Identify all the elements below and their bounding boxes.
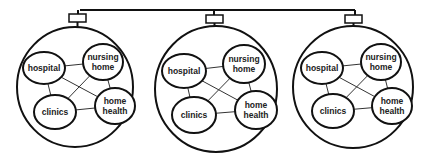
node-label: home xyxy=(381,96,404,106)
node-home-health: homehealth xyxy=(372,88,412,124)
node-label: health xyxy=(379,106,404,116)
network-boundary xyxy=(293,26,413,148)
node-nursing-home: nursinghome xyxy=(83,44,123,80)
node-nursing-home: nursinghome xyxy=(361,44,401,80)
node-home-health: homehealth xyxy=(95,88,135,124)
network-boundary xyxy=(17,27,133,147)
node-clinics: clinics xyxy=(34,95,76,129)
node-label: home xyxy=(233,64,256,74)
node-label: health xyxy=(102,106,127,116)
node-label: health xyxy=(243,110,268,120)
node-label: home xyxy=(370,62,393,72)
connector-box xyxy=(345,15,362,23)
node-label: hospital xyxy=(168,66,201,76)
care-network-diagram: hospitalnursinghomeclinicshomehealthhosp… xyxy=(0,0,436,157)
node-label: hospital xyxy=(28,63,61,73)
connector-box xyxy=(206,15,223,23)
node-hospital: hospital xyxy=(162,54,206,88)
node-label: nursing xyxy=(87,52,118,62)
network-boundary xyxy=(155,26,277,152)
connector-box xyxy=(69,14,86,22)
node-label: home xyxy=(104,96,127,106)
node-label: clinics xyxy=(181,110,208,120)
care-network: hospitalnursinghomeclinicshomehealth xyxy=(293,10,413,148)
node-label: nursing xyxy=(365,52,396,62)
node-label: nursing xyxy=(228,54,259,64)
node-hospital: hospital xyxy=(301,52,343,84)
node-label: home xyxy=(92,62,115,72)
node-label: clinics xyxy=(42,107,69,117)
node-clinics: clinics xyxy=(312,94,354,128)
node-label: hospital xyxy=(306,63,339,73)
node-label: clinics xyxy=(320,106,347,116)
node-home-health: homehealth xyxy=(235,91,277,129)
node-label: home xyxy=(245,100,268,110)
networks: hospitalnursinghomeclinicshomehealthhosp… xyxy=(17,10,413,152)
node-nursing-home: nursinghome xyxy=(223,45,265,83)
care-network: hospitalnursinghomeclinicshomehealth xyxy=(17,10,135,147)
care-network: hospitalnursinghomeclinicshomehealth xyxy=(155,10,277,152)
node-hospital: hospital xyxy=(23,52,65,84)
node-clinics: clinics xyxy=(172,97,216,133)
